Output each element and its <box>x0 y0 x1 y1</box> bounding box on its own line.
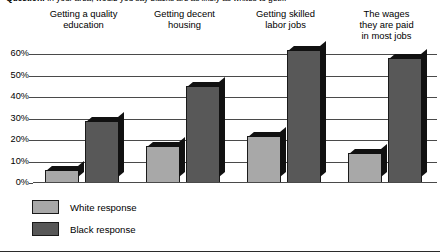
question-body: In your area, would you say blacks are a… <box>45 0 287 3</box>
bar-undefined[interactable] <box>388 54 422 183</box>
category-label-line: in most jobs <box>336 30 437 41</box>
y-axis-tick-label: 0% <box>16 177 29 187</box>
category-label-line: education <box>33 19 134 30</box>
bar-top-face <box>46 166 84 171</box>
bar-side-face <box>219 77 225 177</box>
y-axis-tick <box>29 183 33 184</box>
bar-rect[interactable] <box>287 50 321 183</box>
legend-swatch-black <box>32 222 59 236</box>
bar-undefined[interactable] <box>186 54 220 183</box>
legend-swatch-white <box>32 200 59 214</box>
bar-group-1 <box>134 54 235 183</box>
bar-side-face <box>118 112 124 177</box>
bar-top-face <box>147 142 185 147</box>
bar-group-3 <box>336 54 437 183</box>
category-label-0: Getting a qualityeducation <box>33 8 134 44</box>
bar-top-face <box>349 149 387 154</box>
y-axis-tick-label: 30% <box>11 113 29 123</box>
question-text: Question: In your area, would you say bl… <box>6 0 436 5</box>
bar-rect[interactable] <box>186 86 220 183</box>
category-label-line: housing <box>134 19 235 30</box>
bar-top-face <box>187 82 225 87</box>
category-label-3: The wagesthey are paidin most jobs <box>336 8 437 44</box>
y-axis-tick-label: 50% <box>11 70 29 80</box>
y-axis: 60%50%40%30%20%10%0% <box>0 54 29 183</box>
x-axis-baseline <box>33 182 437 183</box>
bar-top-face <box>248 132 286 137</box>
bar-group-2 <box>235 54 336 183</box>
bar-rect[interactable] <box>388 58 422 183</box>
category-label-line: Getting a quality <box>33 8 134 19</box>
bar-top-face <box>389 54 427 59</box>
bar-rect[interactable] <box>146 146 180 183</box>
question-prefix: Question: <box>6 0 45 3</box>
category-label-line: Getting skilled <box>235 8 336 19</box>
legend-label-black: Black response <box>70 224 136 235</box>
bar-undefined[interactable] <box>247 54 281 183</box>
category-label-2: Getting skilledlabor jobs <box>235 8 336 44</box>
bar-undefined[interactable] <box>146 54 180 183</box>
category-label-line: Getting decent <box>134 8 235 19</box>
bar-top-face <box>288 46 326 51</box>
y-axis-tick-label: 20% <box>11 134 29 144</box>
y-axis-tick-label: 40% <box>11 91 29 101</box>
y-axis-tick-label: 10% <box>11 156 29 166</box>
plot-area <box>33 54 437 183</box>
legend: White responseBlack response <box>32 200 137 244</box>
bar-undefined[interactable] <box>348 54 382 183</box>
category-header-row: Getting a qualityeducationGetting decent… <box>33 8 437 44</box>
bar-side-face <box>320 41 326 177</box>
bar-side-face <box>421 49 427 177</box>
y-axis-tick-label: 60% <box>11 48 29 58</box>
bar-groups <box>33 54 437 183</box>
bar-undefined[interactable] <box>85 54 119 183</box>
bar-rect[interactable] <box>348 153 382 183</box>
chart-container: Question: In your area, would you say bl… <box>0 0 440 252</box>
legend-item-black[interactable]: Black response <box>32 222 137 236</box>
legend-label-white: White response <box>70 202 137 213</box>
category-label-line: labor jobs <box>235 19 336 30</box>
legend-item-white[interactable]: White response <box>32 200 137 214</box>
category-label-line: they are paid <box>336 19 437 30</box>
bar-rect[interactable] <box>85 121 119 183</box>
bar-rect[interactable] <box>247 136 281 183</box>
bar-top-face <box>86 117 124 122</box>
category-label-line: The wages <box>336 8 437 19</box>
category-label-1: Getting decenthousing <box>134 8 235 44</box>
bar-group-0 <box>33 54 134 183</box>
bar-undefined[interactable] <box>287 54 321 183</box>
bar-undefined[interactable] <box>45 54 79 183</box>
